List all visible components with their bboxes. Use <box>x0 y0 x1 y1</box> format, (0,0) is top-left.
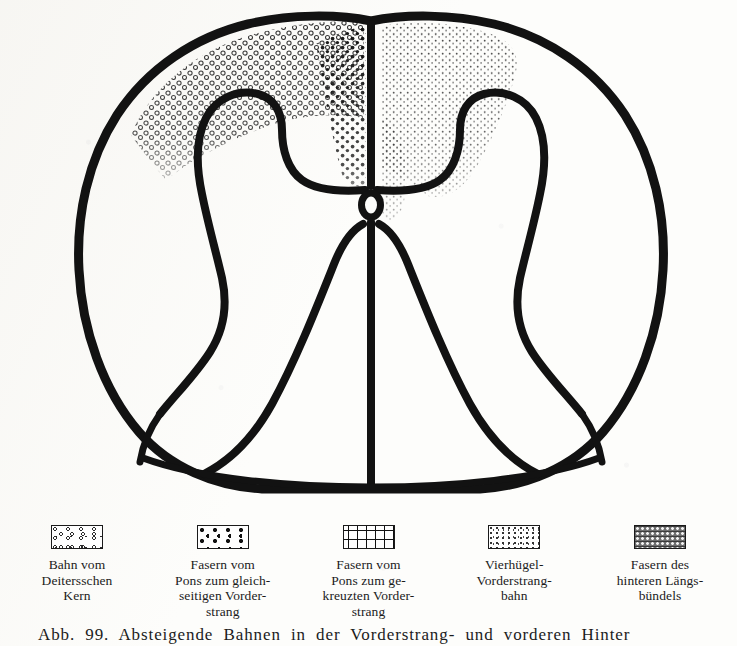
legend-label-laengsbuendel: Fasern des hinteren Längs- bündels <box>617 557 704 604</box>
legend-item-pons-ipsilateral: Fasern vom Pons zum gleich- seitigen Vor… <box>154 512 292 619</box>
figure-caption-row: Abb. 99. Absteigende Bahnen in der Vorde… <box>0 628 737 646</box>
legend-item-laengsbuendel: Fasern des hinteren Längs- bündels <box>591 512 729 604</box>
legend-item-deiters: Bahn vom Deitersschen Kern <box>8 512 146 604</box>
legend-label-deiters: Bahn vom Deitersschen Kern <box>42 557 113 604</box>
legend-label-pons-crossed: Fasern vom Pons zum ge- kreuzten Vorder-… <box>323 557 415 619</box>
left-ventral-commissure <box>204 224 363 474</box>
figure-caption: Abb. 99. Absteigende Bahnen in der Vorde… <box>38 628 630 645</box>
anatomical-figure <box>0 0 737 512</box>
spinal-cord-cross-section-svg <box>0 0 737 512</box>
legend-label-vierhuegel: Vierhügel- Vorderstrang- bahn <box>477 557 552 604</box>
legend-swatch-open-circles <box>51 525 103 549</box>
right-ventral-commissure <box>379 224 538 474</box>
legend-swatch-fine-stipple <box>488 525 540 549</box>
legend: Bahn vom Deitersschen Kern Fasern vom Po… <box>0 512 737 624</box>
legend-item-vierhuegel: Vierhügel- Vorderstrang- bahn <box>445 512 583 604</box>
legend-swatch-crosses <box>343 525 395 549</box>
legend-swatch-solid-dots <box>197 525 249 549</box>
figure-page: Bahn vom Deitersschen Kern Fasern vom Po… <box>0 0 737 646</box>
legend-item-pons-crossed: Fasern vom Pons zum ge- kreuzten Vorder-… <box>300 512 438 619</box>
legend-swatch-mesh <box>634 525 686 549</box>
central-canal <box>362 193 381 217</box>
legend-label-pons-ipsilateral: Fasern vom Pons zum gleich- seitigen Vor… <box>175 557 270 619</box>
